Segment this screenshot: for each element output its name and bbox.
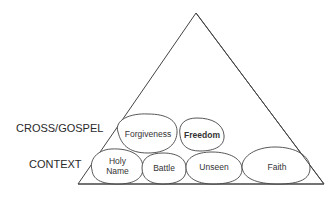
row-label-cross-gospel: CROSS/GOSPEL [16,122,103,134]
blob-label-faith: Faith [252,162,302,172]
blob-label-forgiveness: Forgiveness [118,129,178,139]
blob-label-freedom: Freedom [180,130,224,140]
blob-label-battle: Battle [142,163,186,173]
blob-label-holy-name: Holy Name [92,156,143,176]
blob-label-name: Name [106,166,129,176]
blob-label-unseen: Unseen [186,162,242,172]
blob-label-holy: Holy [109,156,126,166]
row-label-context: CONTEXT [29,158,82,170]
